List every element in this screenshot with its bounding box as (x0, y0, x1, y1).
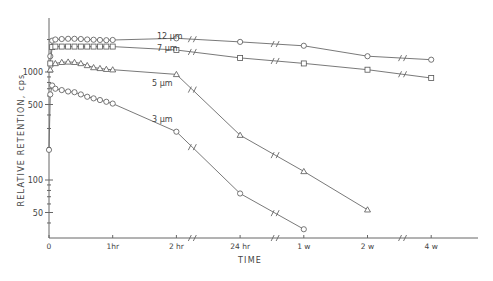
data-point (238, 39, 243, 44)
data-point (53, 86, 58, 91)
data-point (174, 129, 179, 134)
data-point (66, 89, 71, 94)
data-point (97, 44, 102, 49)
y-ticks: 100050010050 (23, 39, 53, 222)
x-axis-label: TIME (237, 256, 262, 265)
x-tick-label: 2 w (361, 242, 374, 251)
data-point (91, 44, 96, 49)
data-point (301, 43, 306, 48)
data-point (59, 36, 64, 41)
data-point (72, 44, 77, 49)
series-5m (47, 59, 370, 212)
y-axis-label: RELATIVE RETENTION, cps (17, 74, 26, 207)
data-point (65, 59, 71, 64)
data-point (85, 37, 90, 42)
series-label: 7 µm (157, 44, 178, 53)
series-label: 3 µm (152, 115, 173, 124)
data-point (238, 191, 243, 196)
data-point (72, 90, 77, 95)
x-ticks: 01hr2 hr24 hr1 w2 w4 w (47, 235, 438, 251)
series-labels: 12 µm7 µm5 µm3 µm (152, 32, 183, 124)
series-7m (48, 44, 434, 80)
series-label: 12 µm (157, 32, 183, 41)
data-point (110, 44, 115, 49)
data-point (48, 61, 53, 66)
data-point (110, 101, 115, 106)
data-point (301, 168, 307, 173)
data-point (48, 54, 53, 59)
data-point (72, 36, 77, 41)
data-point (78, 44, 83, 49)
data-point (301, 61, 306, 66)
data-point (365, 207, 371, 212)
data-point (66, 36, 71, 41)
data-point (301, 227, 306, 232)
data-point (59, 87, 64, 92)
data-point (91, 37, 96, 42)
data-series (46, 36, 433, 232)
x-tick-label: 1 w (297, 242, 310, 251)
data-point (97, 37, 102, 42)
y-tick-label: 500 (28, 101, 43, 110)
data-point (365, 67, 370, 72)
data-point (104, 44, 109, 49)
x-tick-label: 2 hr (169, 242, 185, 251)
data-point (365, 54, 370, 59)
x-tick-label: 24 hr (230, 242, 251, 251)
data-point (48, 92, 53, 97)
y-tick-label: 100 (28, 176, 43, 185)
series-label: 5 µm (152, 79, 173, 88)
data-point (59, 44, 64, 49)
axis-break-marks (188, 36, 406, 241)
data-point (104, 99, 109, 104)
retention-chart: 100050010050 01hr2 hr24 hr1 w2 w4 w 12 µ… (0, 0, 493, 281)
data-point (429, 75, 434, 80)
data-point (97, 97, 102, 102)
series-3m (46, 83, 306, 232)
data-point (85, 44, 90, 49)
data-point (53, 44, 58, 49)
data-point (238, 55, 243, 60)
data-point (78, 92, 83, 97)
data-point (110, 37, 115, 42)
data-point (53, 37, 58, 42)
x-tick-label: 0 (47, 242, 52, 251)
data-point (66, 44, 71, 49)
data-point (429, 57, 434, 62)
data-point (85, 94, 90, 99)
data-point (91, 96, 96, 101)
data-point (78, 36, 83, 41)
data-point (46, 147, 51, 152)
data-point (104, 38, 109, 43)
x-tick-label: 4 w (425, 242, 438, 251)
y-tick-label: 50 (33, 209, 43, 218)
x-tick-label: 1hr (106, 242, 120, 251)
